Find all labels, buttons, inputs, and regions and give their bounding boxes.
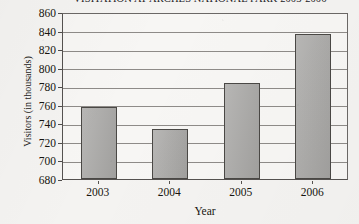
- chart-title: VISITATION AT ARCHES NATIONAL PARK 2003-…: [50, 0, 350, 4]
- y-tick-label: 700: [10, 155, 56, 167]
- x-tick-label-2003: 2003: [68, 186, 128, 198]
- bar-2006: [295, 34, 331, 179]
- y-tick-label: 740: [10, 118, 56, 130]
- x-axis-label: Year: [62, 205, 348, 217]
- y-tick-label: 680: [10, 174, 56, 186]
- x-tick-mark: [169, 181, 170, 184]
- y-tick-mark: [58, 13, 62, 14]
- plot-area: [62, 13, 348, 180]
- bar-2005: [224, 83, 260, 179]
- x-tick-label-2004: 2004: [139, 186, 199, 198]
- y-tick-mark: [58, 161, 62, 162]
- x-tick-mark: [312, 181, 313, 184]
- y-tick-label: 720: [10, 137, 56, 149]
- y-tick-mark: [58, 69, 62, 70]
- y-tick-label: 760: [10, 100, 56, 112]
- y-tick-mark: [58, 124, 62, 125]
- y-tick-mark: [58, 50, 62, 51]
- y-tick-label: 780: [10, 81, 56, 93]
- x-tick-mark: [241, 181, 242, 184]
- y-tick-mark: [58, 32, 62, 33]
- bar-2004: [152, 129, 188, 179]
- y-tick-mark: [58, 143, 62, 144]
- x-tick-label-2006: 2006: [282, 186, 342, 198]
- y-tick-label: 820: [10, 44, 56, 56]
- y-tick-mark: [58, 87, 62, 88]
- y-tick-label: 840: [10, 26, 56, 38]
- bar-2003: [81, 107, 117, 179]
- x-tick-mark: [98, 181, 99, 184]
- gridline: [63, 32, 347, 33]
- y-tick-label: 860: [10, 7, 56, 19]
- y-tick-mark: [58, 106, 62, 107]
- chart-screenshot: VISITATION AT ARCHES NATIONAL PARK 2003-…: [0, 0, 359, 224]
- y-tick-mark: [58, 180, 62, 181]
- x-tick-label-2005: 2005: [211, 186, 271, 198]
- y-tick-label: 800: [10, 63, 56, 75]
